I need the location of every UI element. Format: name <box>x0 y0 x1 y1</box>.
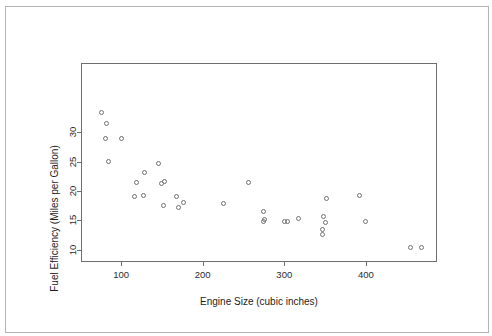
data-point <box>357 193 362 198</box>
data-point <box>419 245 424 250</box>
data-point <box>176 205 181 210</box>
data-point <box>99 110 104 115</box>
data-point <box>104 121 109 126</box>
data-point <box>408 245 413 250</box>
x-axis-tick <box>203 261 204 266</box>
data-point <box>296 216 301 221</box>
x-axis-tick-label: 400 <box>358 269 374 280</box>
x-axis-tick <box>284 261 285 266</box>
figure-panel: 1002003004001015202530 Engine Size (cubi… <box>5 6 489 333</box>
data-point <box>324 196 329 201</box>
y-axis-label: Fuel Efficiency (Miles per Gallon) <box>0 129 154 309</box>
data-point <box>174 194 179 199</box>
data-point <box>285 219 290 224</box>
data-point <box>323 220 328 225</box>
data-point <box>261 209 266 214</box>
x-axis-tick-label: 300 <box>276 269 292 280</box>
data-point <box>261 219 266 224</box>
data-point <box>363 219 368 224</box>
data-point <box>321 214 326 219</box>
x-axis-tick-label: 200 <box>195 269 211 280</box>
x-axis-tick <box>366 261 367 266</box>
data-point <box>181 200 186 205</box>
data-point <box>156 161 161 166</box>
data-point <box>246 180 251 185</box>
data-point <box>159 181 164 186</box>
y-axis-label-wrapper: Fuel Efficiency (Miles per Gallon) <box>24 63 38 262</box>
data-point <box>320 232 325 237</box>
data-point <box>221 201 226 206</box>
data-point <box>161 203 166 208</box>
data-point <box>320 227 325 232</box>
